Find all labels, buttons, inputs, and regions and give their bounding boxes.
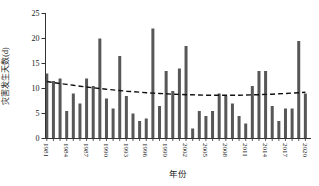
bar-2015 (271, 106, 274, 139)
x-tick-label: 1981 (42, 143, 50, 158)
x-tick-label: 1996 (141, 143, 149, 158)
bar-1984 (65, 111, 68, 139)
bar-2006 (211, 111, 214, 139)
bar-2019 (297, 41, 300, 139)
bar-2018 (291, 109, 294, 139)
x-tick-label: 2011 (241, 143, 249, 157)
bar-1993 (125, 96, 128, 139)
bar-1991 (112, 109, 115, 139)
y-tick-label: 25 (32, 9, 40, 18)
bar-2011 (244, 124, 247, 139)
bar-1985 (72, 94, 75, 139)
bar-1998 (158, 106, 161, 139)
y-axis-title: 灾害发生天数(d) (0, 47, 10, 105)
bar-2020 (304, 94, 307, 139)
bar-2001 (178, 69, 181, 139)
x-tick-label: 2005 (201, 143, 209, 158)
bar-2003 (191, 129, 194, 139)
bar-1996 (145, 119, 148, 139)
y-tick-label: 15 (32, 59, 40, 68)
bar-2009 (231, 104, 234, 139)
x-tick-label: 1990 (102, 143, 110, 158)
x-tick-label: 2002 (181, 143, 189, 158)
x-axis-title: 年份 (169, 169, 187, 179)
bar-2007 (218, 94, 221, 139)
bar-2008 (224, 96, 227, 139)
bar-2004 (198, 111, 201, 139)
x-tick-label: 1984 (62, 143, 70, 158)
bar-1992 (118, 56, 121, 139)
x-tick-label: 1987 (82, 143, 90, 158)
y-tick-label: 20 (32, 34, 40, 43)
bar-1995 (138, 121, 141, 139)
y-tick-label: 5 (36, 109, 40, 118)
y-tick-label: 0 (36, 134, 40, 143)
x-tick-label: 2020 (301, 143, 309, 158)
bar-2012 (251, 86, 254, 139)
x-tick-label: 2008 (221, 143, 229, 158)
bar-1988 (92, 86, 95, 139)
bar-1997 (151, 29, 154, 139)
bar-1994 (131, 114, 134, 139)
bar-1986 (78, 104, 81, 139)
chart-figure: 0510152025198119841987199019931996199920… (0, 0, 319, 186)
disaster-days-bar-chart: 0510152025198119841987199019931996199920… (0, 0, 319, 186)
bar-1983 (59, 79, 62, 139)
bar-2010 (238, 116, 241, 139)
bar-2017 (284, 109, 287, 139)
bar-1982 (52, 81, 55, 139)
bar-1999 (165, 71, 168, 139)
bar-2002 (185, 46, 188, 139)
x-tick-label: 2014 (261, 143, 269, 158)
bar-2013 (257, 71, 260, 139)
bar-2014 (264, 71, 267, 139)
bar-2016 (277, 121, 280, 139)
x-tick-label: 1993 (122, 143, 130, 158)
x-tick-label: 1999 (161, 143, 169, 158)
x-tick-label: 2017 (281, 143, 289, 158)
bar-2000 (171, 91, 174, 139)
bar-1990 (105, 99, 108, 139)
y-tick-label: 10 (32, 84, 40, 93)
bar-2005 (204, 116, 207, 139)
